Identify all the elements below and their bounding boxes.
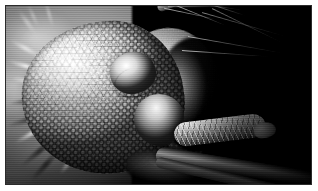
- sem-micrograph-image: SEM of mosquito head showing compound ey…: [6, 6, 311, 184]
- photo-frame: SEM of mosquito head showing compound ey…: [5, 5, 312, 185]
- screenshot-root: SEM of mosquito head showing compound ey…: [0, 0, 318, 191]
